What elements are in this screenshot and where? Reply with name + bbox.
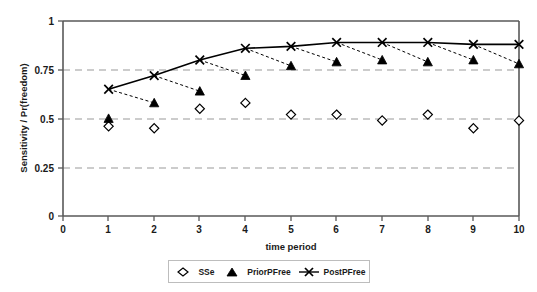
x-axis-ticks: 0 1 2 3 4 5 6 7 8 9 10	[60, 216, 525, 235]
filled-triangle-icon	[221, 266, 243, 278]
legend-item-sse[interactable]: SSe	[170, 266, 216, 278]
x-tick-label-0: 0	[60, 224, 66, 235]
y-tick-label-0.25: 0.25	[35, 163, 55, 174]
legend-label-sse: SSe	[198, 267, 214, 277]
data-point-sse	[469, 124, 478, 133]
data-point-sse	[514, 116, 523, 125]
chart-legend: SSe PriorPFree PostPFree	[168, 260, 370, 283]
data-point-sse	[241, 98, 250, 107]
x-tick-label-9: 9	[470, 224, 476, 235]
x-tick-label-10: 10	[513, 224, 525, 235]
data-point-priorpfree	[378, 55, 387, 64]
chart-figure: 1 0.75 0.5 0.25 0 0 1 2 3 4 5 6 7	[0, 0, 537, 292]
x-tick-label-1: 1	[105, 224, 111, 235]
y-tick-label-0: 0	[48, 211, 54, 222]
data-point-priorpfree	[423, 57, 432, 66]
data-point-priorpfree	[195, 87, 204, 96]
x-tick-label-2: 2	[151, 224, 157, 235]
data-point-priorpfree	[514, 59, 523, 68]
legend-item-postpfree[interactable]: PostPFree	[296, 266, 368, 278]
x-tick-label-7: 7	[379, 224, 385, 235]
x-tick-label-6: 6	[333, 224, 339, 235]
y-tick-label-0.5: 0.5	[40, 114, 54, 125]
data-point-sse	[150, 124, 159, 133]
chart-plot-area: 1 0.75 0.5 0.25 0 0 1 2 3 4 5 6 7	[0, 0, 537, 292]
series-markers-priorpfree	[104, 55, 524, 122]
x-tick-label-3: 3	[196, 224, 202, 235]
y-tick-label-0.75: 0.75	[35, 65, 55, 76]
legend-label-priorpfree: PriorPFree	[247, 267, 290, 277]
y-axis-ticks: 1 0.75 0.5 0.25 0	[35, 16, 63, 222]
x-axis-title: time period	[265, 241, 316, 252]
connector-line	[109, 89, 155, 103]
data-point-sse	[195, 104, 204, 113]
connector-line	[428, 42, 474, 60]
data-point-priorpfree	[286, 61, 295, 70]
connector-line	[337, 42, 383, 60]
data-point-sse	[423, 110, 432, 119]
data-point-priorpfree	[469, 55, 478, 64]
x-tick-label-4: 4	[242, 224, 248, 235]
data-point-sse	[104, 122, 113, 131]
data-point-priorpfree	[104, 114, 113, 123]
open-diamond-icon	[172, 266, 194, 278]
data-point-priorpfree	[241, 71, 250, 80]
series-markers-postpfree	[104, 38, 523, 93]
y-axis-title: Sensitivity / Pr(freedom)	[18, 63, 29, 172]
series-line-postpfree	[109, 42, 519, 89]
connector-line	[245, 48, 291, 66]
connector-lines	[109, 42, 519, 102]
data-point-sse	[332, 110, 341, 119]
connector-line	[382, 42, 428, 62]
connector-line	[154, 76, 200, 92]
x-tick-label-5: 5	[288, 224, 294, 235]
data-point-sse	[286, 110, 295, 119]
data-point-postpfree	[104, 85, 113, 94]
legend-item-priorpfree[interactable]: PriorPFree	[219, 266, 292, 278]
data-point-priorpfree	[332, 57, 341, 66]
data-point-priorpfree	[150, 98, 159, 107]
data-point-postpfree	[150, 71, 159, 80]
connector-line	[200, 60, 246, 76]
data-point-sse	[378, 116, 387, 125]
connector-line	[473, 44, 519, 64]
connector-line	[291, 46, 337, 62]
x-tick-label-8: 8	[425, 224, 431, 235]
legend-label-postpfree: PostPFree	[324, 267, 366, 277]
series-markers-sse	[104, 98, 524, 133]
y-tick-label-1: 1	[48, 16, 54, 27]
cross-x-line-icon	[298, 266, 320, 278]
